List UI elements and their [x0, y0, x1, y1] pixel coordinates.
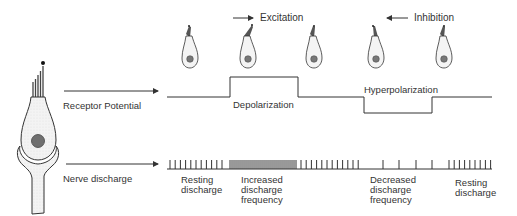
hair-cell-diagram: Excitation Inhibition Receptor Potential…: [0, 0, 517, 216]
hyperpolarization-label: Hyperpolarization: [364, 85, 438, 95]
kinocilium-tip-icon: [41, 61, 45, 65]
small-hair-cell-4-icon: [368, 25, 384, 68]
phase-label-resting-1: Resting discharge: [181, 175, 222, 195]
small-hair-cell-2-icon: [240, 24, 256, 68]
small-hair-cell-5-icon: [436, 25, 452, 68]
nucleus-icon: [32, 135, 45, 148]
small-hair-cell-3-icon: [306, 25, 322, 68]
phase-label-decreased: Decreased discharge frequency: [370, 175, 416, 205]
spike-train: [170, 160, 491, 169]
stereocilia-bundle-icon: [33, 66, 43, 97]
inhibition-label: Inhibition: [414, 13, 454, 23]
small-hair-cell-1-icon: [182, 25, 198, 68]
phase-label-increased: Increased discharge frequency: [241, 175, 283, 205]
receptor-potential-label: Receptor Potential: [63, 101, 141, 111]
nerve-discharge-label: Nerve discharge: [63, 174, 132, 184]
phase-label-resting-2: Resting discharge: [455, 178, 496, 198]
receptor-potential-trace: [167, 77, 492, 113]
large-hair-cell-icon: [17, 61, 58, 214]
excitation-label: Excitation: [260, 13, 303, 23]
depolarization-label: Depolarization: [233, 100, 294, 110]
